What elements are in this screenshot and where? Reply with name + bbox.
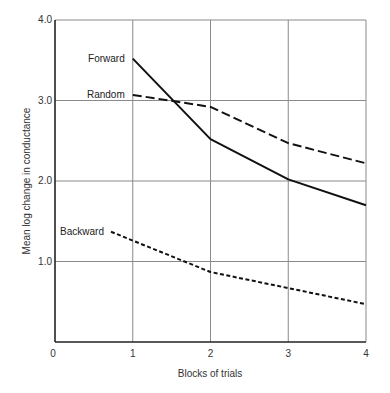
y-axis-ticks: 1.02.03.04.0 — [38, 14, 52, 267]
y-tick-label: 3.0 — [38, 95, 52, 106]
series-label-forward: Forward — [88, 53, 125, 64]
x-tick-label: 4 — [363, 348, 369, 359]
y-tick-label: 4.0 — [38, 14, 52, 25]
line-chart: 1.02.03.04.0 01234 ForwardRandomBackward… — [0, 0, 390, 393]
y-tick-label: 2.0 — [38, 175, 52, 186]
series-line-forward — [133, 59, 366, 206]
y-axis-label: Mean log change in conductance — [21, 107, 32, 254]
series-labels: ForwardRandomBackward — [60, 53, 125, 237]
series-line-random — [133, 95, 366, 163]
y-tick-label: 1.0 — [38, 256, 52, 267]
x-tick-label: 0 — [50, 348, 56, 359]
x-tick-label: 2 — [208, 348, 214, 359]
series-label-backward: Backward — [60, 226, 104, 237]
series-line-backward — [111, 232, 366, 305]
x-tick-label: 1 — [130, 348, 136, 359]
series-label-random: Random — [87, 89, 125, 100]
x-tick-label: 3 — [285, 348, 291, 359]
x-axis-ticks: 01234 — [50, 348, 369, 359]
x-axis-label: Blocks of trials — [178, 368, 242, 379]
